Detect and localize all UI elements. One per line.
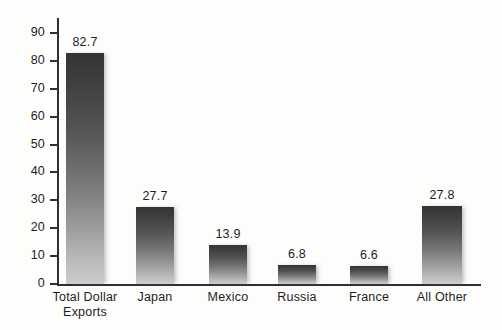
bar-group: 6.8 [278,265,316,284]
bar-value-label: 6.6 [336,248,402,262]
bar [278,265,316,284]
bar-group: 6.6 [350,266,388,284]
bar-group: 13.9 [209,245,247,284]
bar [209,245,247,284]
bar-value-label: 82.7 [52,35,118,49]
bar [422,206,462,284]
bar-value-label: 6.8 [264,247,330,261]
bar [66,53,104,284]
bar [136,207,174,284]
bar-chart: 0102030405060708090 82.7Total Dollar Exp… [0,0,502,330]
x-category-label: France [328,290,410,305]
bar-value-label: 27.7 [122,189,188,203]
x-category-label: All Other [400,290,484,305]
bar-group: 82.7 [66,53,104,284]
bar-value-label: 27.8 [408,188,476,202]
bar-group: 27.8 [422,206,462,284]
bar-value-label: 13.9 [195,227,261,241]
x-category-label: Japan [114,290,196,305]
bars-container: 82.7Total Dollar Exports27.7Japan13.9Mex… [0,0,502,330]
bar [350,266,388,284]
bar-group: 27.7 [136,207,174,284]
x-category-label: Russia [256,290,338,305]
